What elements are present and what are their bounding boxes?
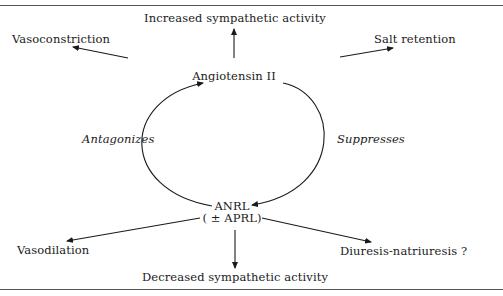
label-increased-sympathetic-activity: Increased sympathetic activity bbox=[144, 11, 326, 25]
label-decreased-sympathetic-activity: Decreased sympathetic activity bbox=[142, 270, 328, 284]
arrow-vasoconstriction bbox=[73, 47, 128, 58]
label-diuresis-natriuresis: Diuresis-natriuresis ? bbox=[340, 244, 467, 258]
node-angiotensin-ii: Angiotensin II bbox=[192, 69, 276, 83]
arc-suppresses bbox=[252, 83, 324, 205]
label-salt-retention: Salt retention bbox=[374, 32, 456, 46]
node-anrl-sublabel: ( ± APRL) bbox=[202, 211, 261, 225]
arrow-salt-retention bbox=[340, 48, 393, 57]
label-suppresses: Suppresses bbox=[337, 132, 405, 146]
label-vasoconstriction: Vasoconstriction bbox=[12, 32, 110, 46]
arrow-vasodilation bbox=[67, 218, 200, 241]
label-antagonizes: Antagonizes bbox=[82, 132, 154, 146]
arrow-diuresis bbox=[262, 218, 371, 242]
label-vasodilation: Vasodilation bbox=[17, 243, 89, 257]
